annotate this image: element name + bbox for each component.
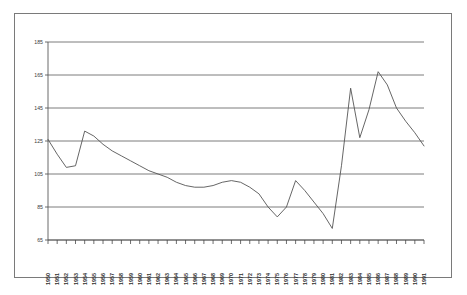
x-axis-tick-label: 1972 (247, 273, 253, 285)
x-axis-tick-label: 1979 (311, 273, 317, 285)
x-axis-tick-label: 1985 (366, 273, 372, 285)
x-axis-tick-label: 1958 (118, 273, 124, 285)
x-axis-tick-label: 1954 (82, 273, 88, 285)
y-axis-labels: 6585105125145165185 (34, 39, 43, 243)
y-axis-tick-label: 125 (34, 138, 43, 144)
x-axis-tick-label: 1950 (45, 273, 51, 285)
line-chart: 6585105125145165185 19501951195219531954… (0, 0, 467, 295)
x-axis-tick-label: 1982 (338, 273, 344, 285)
x-axis-tick-label: 1965 (183, 273, 189, 285)
x-axis-tick-label: 1964 (173, 273, 179, 285)
x-axis-labels: 1950195119521953195419551956195719581959… (45, 273, 427, 285)
x-axis-tick-label: 1987 (384, 273, 390, 285)
x-axis-tick-label: 1976 (283, 273, 289, 285)
y-axis-tick-label: 65 (37, 237, 43, 243)
x-axis-tick-label: 1967 (201, 273, 207, 285)
x-axis-tick-label: 1951 (54, 273, 60, 285)
y-axis-tick-label: 165 (34, 72, 43, 78)
x-axis-tick-label: 1980 (320, 273, 326, 285)
data-series-line (48, 72, 424, 229)
y-axis-tick-label: 85 (37, 204, 43, 210)
x-axis-tick-label: 1983 (348, 273, 354, 285)
x-axis-tick-label: 1991 (421, 273, 427, 285)
x-axis-tick-label: 1953 (73, 273, 79, 285)
x-axis-tick-label: 1989 (403, 273, 409, 285)
y-axis-tick-label: 145 (34, 105, 43, 111)
x-axis-tick-label: 1986 (375, 273, 381, 285)
x-axis-tick-label: 1973 (256, 273, 262, 285)
x-axis-tick-label: 1962 (155, 273, 161, 285)
x-axis-tick-label: 1984 (357, 273, 363, 285)
x-axis-tick-label: 1957 (109, 273, 115, 285)
x-axis-tick-label: 1990 (412, 273, 418, 285)
x-axis-tick-label: 1952 (63, 273, 69, 285)
x-axis-tick-label: 1981 (329, 273, 335, 285)
x-axis-tick-label: 1955 (91, 273, 97, 285)
y-axis-tick-label: 185 (34, 39, 43, 45)
x-axis-tick-label: 1960 (137, 273, 143, 285)
x-tick-group (48, 240, 424, 244)
x-axis-tick-label: 1961 (146, 273, 152, 285)
x-axis-tick-label: 1977 (293, 273, 299, 285)
y-axis-tick-label: 105 (34, 171, 43, 177)
x-axis-tick-label: 1974 (265, 273, 271, 285)
x-axis-tick-label: 1959 (128, 273, 134, 285)
gridline-group (48, 42, 424, 240)
x-axis-tick-label: 1988 (393, 273, 399, 285)
x-axis-tick-label: 1968 (210, 273, 216, 285)
x-axis-tick-label: 1969 (219, 273, 225, 285)
x-axis-tick-label: 1978 (302, 273, 308, 285)
x-axis-tick-label: 1971 (238, 273, 244, 285)
x-axis-tick-label: 1975 (274, 273, 280, 285)
x-axis-tick-label: 1966 (192, 273, 198, 285)
x-axis-tick-label: 1970 (228, 273, 234, 285)
x-axis-tick-label: 1956 (100, 273, 106, 285)
x-axis-tick-label: 1963 (164, 273, 170, 285)
